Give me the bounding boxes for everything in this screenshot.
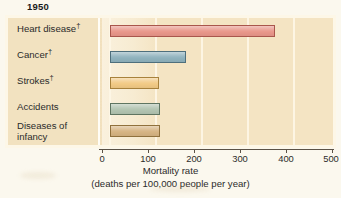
bar-diseases-of-infancy (110, 125, 160, 137)
tick-mark-100 (148, 149, 149, 153)
tick-label-400: 400 (278, 153, 294, 164)
category-label-diseases-of-infancy: Diseases of infancy (17, 121, 67, 142)
bar-heart-disease (110, 25, 275, 37)
bar-sheen (111, 26, 274, 36)
tick-mark-300 (240, 149, 241, 153)
axis-title-line2: (deaths per 100,000 people per year) (0, 178, 341, 191)
gridline-200 (201, 18, 203, 145)
tick-mark-0 (102, 149, 103, 153)
category-label-text: Cancer (17, 49, 48, 60)
category-label-text-line2: infancy (17, 131, 47, 142)
bar-accidents (110, 103, 160, 115)
axis-line (99, 149, 334, 150)
tick-mark-400 (286, 149, 287, 153)
chart-panel: Heart disease† Cancer† Strokes† Accident… (5, 15, 336, 148)
gridline-300 (247, 18, 249, 145)
category-label-strokes: Strokes† (17, 76, 54, 87)
bar-sheen (111, 78, 158, 88)
dagger-icon: † (50, 73, 54, 82)
chart-figure: 1950 Heart disease† Cancer† Strokes† Acc… (0, 0, 341, 198)
tick-label-0: 0 (99, 153, 104, 164)
gridline-400 (293, 18, 295, 145)
tick-mark-200 (194, 149, 195, 153)
category-label-text: Accidents (17, 101, 59, 112)
category-label-accidents: Accidents (17, 102, 59, 113)
dagger-icon: † (48, 47, 52, 56)
category-label-text: Strokes (17, 75, 50, 86)
bar-sheen (111, 126, 159, 136)
chart-title: 1950 (27, 1, 49, 12)
tick-label-500: 500 (323, 153, 339, 164)
dagger-icon: † (76, 21, 80, 30)
category-label-cancer: Cancer† (17, 50, 52, 61)
category-label-text: Heart disease (17, 23, 76, 34)
bar-cancer (110, 51, 186, 63)
bar-sheen (111, 52, 185, 62)
axis-title-line1: Mortality rate (143, 165, 198, 176)
category-label-heart-disease: Heart disease† (17, 24, 80, 35)
tick-label-100: 100 (140, 153, 156, 164)
category-label-column: Heart disease† Cancer† Strokes† Accident… (8, 18, 100, 145)
category-label-text-line1: Diseases of (17, 120, 67, 131)
axis-title: Mortality rate (deaths per 100,000 peopl… (0, 165, 341, 190)
bar-sheen (111, 104, 159, 114)
x-axis: 0 100 200 300 400 500 Mortality rate (de… (0, 148, 341, 198)
plot-area (102, 18, 333, 145)
tick-label-300: 300 (232, 153, 248, 164)
bar-strokes (110, 77, 159, 89)
tick-label-200: 200 (186, 153, 202, 164)
tick-mark-500 (332, 149, 333, 153)
